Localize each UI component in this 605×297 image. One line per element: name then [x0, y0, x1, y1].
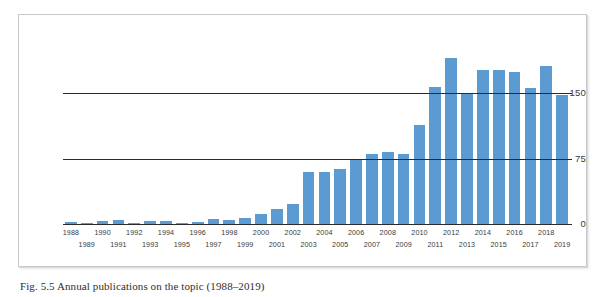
bar — [414, 125, 426, 224]
x-tick-label-2002: 2002 — [279, 228, 307, 237]
x-tick-label-2014: 2014 — [469, 228, 497, 237]
axis-baseline — [63, 224, 572, 225]
x-tick-label-2016: 2016 — [501, 228, 529, 237]
bar — [382, 152, 394, 224]
bar — [366, 154, 378, 224]
y-tick-label-150: 150 — [549, 88, 586, 97]
bar — [350, 159, 362, 224]
x-tick-label-2015: 2015 — [485, 240, 513, 249]
x-tick-label-1988: 1988 — [57, 228, 85, 237]
y-tick-label-75: 75 — [549, 154, 586, 163]
bar — [255, 214, 267, 224]
x-tick-label-2010: 2010 — [405, 228, 433, 237]
x-tick-label-2018: 2018 — [532, 228, 560, 237]
chart-frame: 075150 198819891990199119921993199419951… — [18, 14, 587, 267]
x-tick-label-1997: 1997 — [200, 240, 228, 249]
x-tick-label-2000: 2000 — [247, 228, 275, 237]
x-tick-label-1998: 1998 — [215, 228, 243, 237]
x-tick-label-2019: 2019 — [548, 240, 576, 249]
x-tick-label-2007: 2007 — [358, 240, 386, 249]
bar — [303, 172, 315, 224]
bar — [319, 172, 331, 224]
bar — [525, 88, 537, 224]
plot-area: 075150 198819891990199119921993199419951… — [19, 15, 586, 266]
x-tick-label-2004: 2004 — [310, 228, 338, 237]
x-tick-label-1991: 1991 — [104, 240, 132, 249]
bar — [445, 58, 457, 224]
x-tick-label-1999: 1999 — [231, 240, 259, 249]
x-tick-label-2009: 2009 — [390, 240, 418, 249]
x-tick-label-1993: 1993 — [136, 240, 164, 249]
x-tick-label-2011: 2011 — [421, 240, 449, 249]
figure-caption: Fig. 5.5 Annual publications on the topi… — [20, 280, 265, 292]
x-tick-label-2017: 2017 — [516, 240, 544, 249]
x-tick-label-2008: 2008 — [374, 228, 402, 237]
x-tick-label-1992: 1992 — [120, 228, 148, 237]
bar — [271, 209, 283, 224]
figure-root: 075150 198819891990199119921993199419951… — [0, 0, 605, 297]
gridline-75 — [63, 159, 572, 160]
x-tick-label-1990: 1990 — [89, 228, 117, 237]
x-tick-label-1995: 1995 — [168, 240, 196, 249]
x-tick-label-2012: 2012 — [437, 228, 465, 237]
gridline-150 — [63, 93, 572, 94]
bar — [509, 72, 521, 224]
bar — [429, 87, 441, 224]
y-tick-label-0: 0 — [549, 219, 586, 228]
x-tick-label-2013: 2013 — [453, 240, 481, 249]
x-tick-label-2005: 2005 — [326, 240, 354, 249]
bar — [287, 204, 299, 224]
x-tick-label-2001: 2001 — [263, 240, 291, 249]
bar — [398, 154, 410, 224]
x-tick-label-1996: 1996 — [184, 228, 212, 237]
x-tick-label-2003: 2003 — [295, 240, 323, 249]
bar — [334, 169, 346, 224]
x-tick-label-2006: 2006 — [342, 228, 370, 237]
x-tick-label-1989: 1989 — [73, 240, 101, 249]
x-tick-label-1994: 1994 — [152, 228, 180, 237]
